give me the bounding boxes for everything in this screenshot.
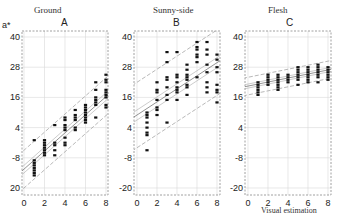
data-point [145,134,148,136]
data-point [215,84,218,86]
data-point [53,154,56,156]
data-point [84,116,87,118]
data-point [43,154,46,156]
data-point [104,106,107,108]
data-point [316,71,319,73]
data-point [63,129,66,131]
data-point [94,96,97,98]
data-point [63,124,66,126]
data-point [276,76,279,78]
scatter-plot-c: 4028164-8-2002468 [220,0,339,216]
data-point [205,91,208,93]
data-point [94,104,97,106]
data-point [94,101,97,103]
data-point [145,132,148,134]
data-point [215,91,218,93]
data-point [43,152,46,154]
x-tick-label: 8 [103,198,108,208]
data-point [316,64,319,66]
data-point [316,66,319,68]
y-tick-label: 16 [10,92,20,102]
data-point [155,81,158,83]
data-point [306,79,309,81]
data-point [175,86,178,88]
data-point [205,48,208,50]
data-point [104,79,107,81]
data-point [84,109,87,111]
data-point [195,76,198,78]
data-point [104,94,107,96]
data-point [306,69,309,71]
data-point [43,144,46,146]
x-tick-label: 8 [325,198,330,208]
y-tick-label: 40 [122,32,132,42]
x-tick-label: 0 [21,198,26,208]
data-point [155,106,158,108]
data-point [175,51,178,53]
data-point [53,144,56,146]
data-point [43,149,46,151]
data-point [326,76,329,78]
data-point [316,69,319,71]
data-point [165,86,168,88]
data-point [326,69,329,71]
data-point [195,54,198,56]
data-point [74,114,77,116]
data-point [53,142,56,144]
data-point [266,81,269,83]
y-tick-label: -20 [230,183,243,193]
data-point [33,164,36,166]
data-point [296,71,299,73]
data-point [43,142,46,144]
data-point [296,74,299,76]
data-point [155,91,158,93]
data-point [205,54,208,56]
data-point [306,81,309,83]
data-point [145,116,148,118]
data-point [326,74,329,76]
data-point [286,79,289,81]
data-point [276,74,279,76]
y-tick-label: -8 [235,153,243,163]
data-point [256,89,259,91]
data-point [185,84,188,86]
data-point [63,119,66,121]
data-point [276,86,279,88]
data-point [165,76,168,78]
data-point [286,81,289,83]
data-point [316,74,319,76]
data-point [63,116,66,118]
data-point [296,76,299,78]
data-point [256,91,259,93]
data-point [276,81,279,83]
data-point [205,86,208,88]
data-point [33,174,36,176]
data-point [175,74,178,76]
data-point [195,46,198,48]
x-tick-label: 4 [62,198,67,208]
data-point [185,64,188,66]
data-point [205,41,208,43]
data-point [205,71,208,73]
x-tick-label: 2 [154,198,159,208]
data-point [53,124,56,126]
data-point [63,144,66,146]
data-point [195,48,198,50]
y-tick-label: 40 [233,32,243,42]
data-point [296,84,299,86]
data-point [185,74,188,76]
data-point [195,41,198,43]
data-point [256,84,259,86]
data-point [205,64,208,66]
data-point [215,71,218,73]
data-point [215,54,218,56]
data-point [175,81,178,83]
data-point [326,79,329,81]
data-point [296,66,299,68]
data-point [276,84,279,86]
data-point [266,74,269,76]
data-point [175,89,178,91]
panel-a: Ground A 4028164-82002468 [0,0,113,216]
data-point [276,79,279,81]
data-point [306,76,309,78]
